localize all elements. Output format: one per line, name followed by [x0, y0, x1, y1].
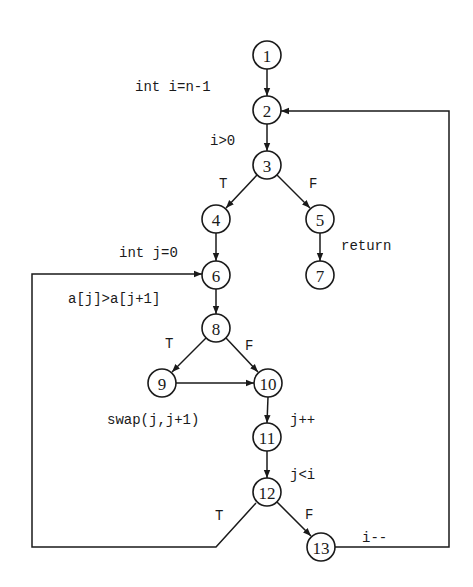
label-dec-i: i-- — [362, 530, 387, 546]
svg-text:10: 10 — [260, 375, 277, 394]
control-flow-graph: 1 2 3 4 5 6 7 8 9 10 11 12 13 int i=n-1 … — [0, 0, 473, 587]
node-12: 12 — [253, 478, 281, 506]
node-6: 6 — [202, 261, 230, 289]
label-return: return — [341, 238, 391, 254]
node-4: 4 — [202, 205, 230, 233]
edges — [32, 69, 449, 547]
node-3: 3 — [253, 151, 281, 179]
node-5: 5 — [306, 205, 334, 233]
branch-true-8: T — [165, 336, 173, 352]
label-swap: swap(j,j+1) — [107, 412, 199, 428]
node-11: 11 — [253, 423, 281, 451]
label-cond-a: a[j]>a[j+1] — [68, 291, 160, 307]
edge-3-5 — [277, 175, 310, 208]
edge-8-9 — [172, 338, 206, 372]
label-init-j: int j=0 — [119, 245, 178, 261]
svg-text:13: 13 — [313, 539, 330, 558]
svg-text:12: 12 — [259, 484, 276, 503]
svg-text:1: 1 — [263, 47, 272, 66]
node-2: 2 — [253, 96, 281, 124]
branch-true-3: T — [219, 176, 227, 192]
svg-text:3: 3 — [263, 157, 272, 176]
svg-text:2: 2 — [263, 102, 272, 121]
edge-10-11 — [267, 397, 268, 423]
svg-text:6: 6 — [212, 267, 221, 286]
branch-false-3: F — [309, 176, 317, 192]
edge-3-4 — [226, 175, 257, 208]
node-8: 8 — [202, 314, 230, 342]
node-7: 7 — [306, 261, 334, 289]
branch-true-12: T — [215, 508, 223, 524]
label-init-i: int i=n-1 — [135, 79, 211, 95]
svg-text:5: 5 — [316, 211, 325, 230]
node-13: 13 — [307, 533, 335, 561]
label-cond-j: j<i — [290, 467, 315, 483]
svg-text:11: 11 — [259, 429, 275, 448]
branch-false-12: F — [305, 507, 313, 523]
svg-text:9: 9 — [158, 375, 167, 394]
node-1: 1 — [253, 41, 281, 69]
svg-text:4: 4 — [212, 211, 221, 230]
svg-text:8: 8 — [212, 320, 221, 339]
node-9: 9 — [148, 369, 176, 397]
node-10: 10 — [254, 369, 282, 397]
label-cond-i: i>0 — [210, 133, 235, 149]
label-inc-j: j++ — [290, 412, 315, 428]
branch-false-8: F — [245, 338, 253, 354]
svg-text:7: 7 — [316, 267, 325, 286]
